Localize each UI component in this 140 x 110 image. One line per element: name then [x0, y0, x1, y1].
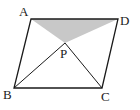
vertex-label-b: B — [3, 87, 12, 102]
vertex-label-d: D — [120, 13, 129, 28]
vertex-label-a: A — [19, 4, 29, 19]
geometry-figure: A D P B C — [0, 0, 140, 110]
point-label-p: P — [60, 46, 67, 61]
diagonal-line-bd — [14, 43, 65, 88]
shaded-triangle-apd — [31, 19, 118, 43]
vertex-label-c: C — [101, 89, 110, 104]
diagonal-line-ac — [65, 43, 102, 88]
